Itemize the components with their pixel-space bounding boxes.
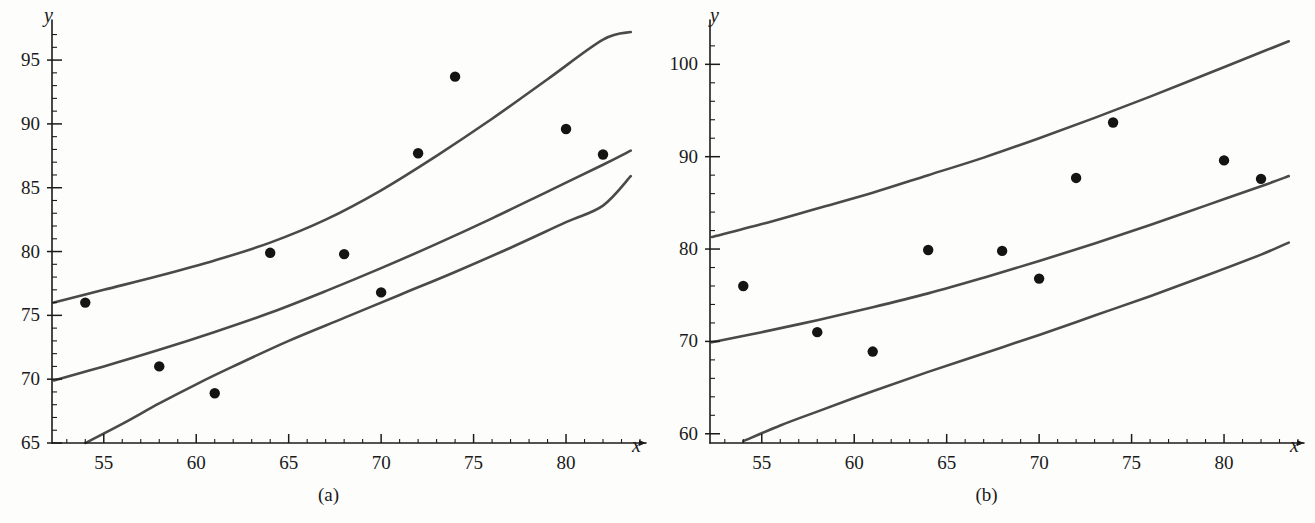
y-axis-label-a: y bbox=[42, 4, 53, 27]
x-tick-label: 75 bbox=[464, 452, 483, 473]
y-tick-label: 60 bbox=[679, 423, 698, 444]
bands-group-a bbox=[54, 32, 631, 443]
fitted-regression-line-curve bbox=[54, 151, 631, 381]
data-point bbox=[561, 124, 571, 134]
x-tick-label: 70 bbox=[372, 452, 391, 473]
y-tick-label: 80 bbox=[21, 241, 40, 262]
lower-prediction-band-curve bbox=[743, 243, 1288, 442]
panel-caption-a: (a) bbox=[0, 484, 657, 506]
data-point bbox=[1034, 273, 1044, 283]
x-tick-label: 65 bbox=[279, 452, 298, 473]
data-point bbox=[812, 327, 822, 337]
x-tick-label: 60 bbox=[187, 452, 206, 473]
data-point bbox=[210, 388, 220, 398]
fitted-regression-line-curve bbox=[712, 176, 1289, 342]
ticklabels-group-a: 55606570758065707580859095 bbox=[21, 49, 576, 473]
y-tick-label: 95 bbox=[21, 49, 40, 70]
data-point bbox=[80, 297, 90, 307]
chart-canvas-b: 55606570758060708090100 x y bbox=[658, 0, 1315, 523]
data-point bbox=[738, 281, 748, 291]
y-tick-label: 70 bbox=[21, 368, 40, 389]
y-tick-label: 80 bbox=[679, 238, 698, 259]
data-point bbox=[598, 149, 608, 159]
x-tick-label: 65 bbox=[937, 452, 956, 473]
data-point bbox=[376, 287, 386, 297]
axes-group-b bbox=[705, 20, 1304, 446]
panel-caption-b: (b) bbox=[658, 484, 1315, 506]
data-point bbox=[1256, 174, 1266, 184]
regression-bands-figure: 55606570758065707580859095 x y (a) 55606… bbox=[0, 0, 1315, 523]
data-point bbox=[450, 71, 460, 81]
data-point bbox=[997, 246, 1007, 256]
y-axis-label-b: y bbox=[708, 4, 719, 27]
x-axis-label-b: x bbox=[1289, 434, 1299, 456]
x-tick-label: 80 bbox=[557, 452, 576, 473]
data-point bbox=[413, 148, 423, 158]
y-tick-label: 85 bbox=[21, 177, 40, 198]
data-point bbox=[1108, 117, 1118, 127]
chart-panel-b: 55606570758060708090100 x y (b) bbox=[658, 0, 1315, 523]
chart-canvas-a: 55606570758065707580859095 x y bbox=[0, 0, 657, 523]
data-point bbox=[1219, 155, 1229, 165]
bands-group-b bbox=[712, 41, 1289, 441]
y-tick-label: 70 bbox=[679, 330, 698, 351]
x-tick-label: 75 bbox=[1122, 452, 1141, 473]
data-point bbox=[339, 249, 349, 259]
x-tick-label: 80 bbox=[1215, 452, 1234, 473]
data-point bbox=[265, 248, 275, 258]
x-tick-label: 70 bbox=[1030, 452, 1049, 473]
x-tick-label: 60 bbox=[845, 452, 864, 473]
y-tick-label: 90 bbox=[21, 113, 40, 134]
x-tick-label: 55 bbox=[752, 452, 771, 473]
data-point bbox=[1071, 173, 1081, 183]
lower-confidence-band-curve bbox=[85, 176, 630, 443]
data-point bbox=[923, 245, 933, 255]
upper-confidence-band-curve bbox=[54, 32, 631, 303]
data-point bbox=[868, 346, 878, 356]
y-tick-label: 90 bbox=[679, 146, 698, 167]
y-tick-label: 65 bbox=[21, 432, 40, 453]
y-tick-label: 75 bbox=[21, 304, 40, 325]
x-tick-label: 55 bbox=[94, 452, 113, 473]
axes-group-a bbox=[47, 20, 646, 446]
chart-panel-a: 55606570758065707580859095 x y (a) bbox=[0, 0, 657, 523]
x-axis-label-a: x bbox=[631, 434, 641, 456]
data-point bbox=[154, 361, 164, 371]
y-tick-label: 100 bbox=[670, 53, 699, 74]
ticklabels-group-b: 55606570758060708090100 bbox=[670, 53, 1234, 473]
